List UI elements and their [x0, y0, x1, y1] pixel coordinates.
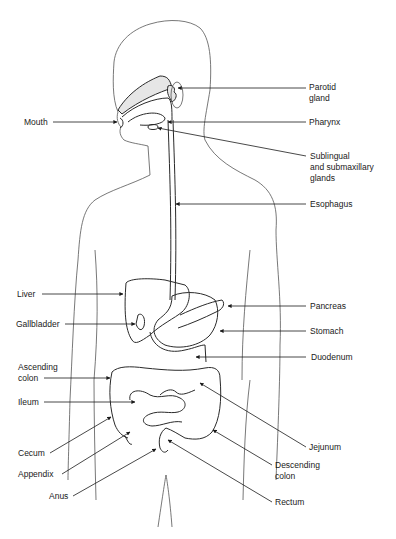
- small-intestine: [130, 390, 195, 426]
- large-intestine: [110, 367, 221, 452]
- face-outline: [117, 112, 150, 175]
- esophagus-tube: [168, 120, 176, 300]
- right-arm-line: [242, 250, 250, 380]
- nasal-cavity: [118, 76, 172, 114]
- label-pancreas: Pancreas: [310, 301, 346, 312]
- right-side-outline: [243, 380, 250, 500]
- label-mouth: Mouth: [24, 117, 48, 128]
- leader-appendix: [62, 432, 130, 474]
- label-gallbladder: Gallbladder: [16, 319, 59, 330]
- label-pharynx: Pharynx: [309, 117, 340, 128]
- leader-jejunum: [200, 383, 306, 447]
- liver-shape: [125, 279, 189, 343]
- left-arm-line: [94, 250, 97, 380]
- tongue: [128, 113, 165, 125]
- left-side-outline: [94, 380, 96, 500]
- label-jejunum: Jejunum: [309, 442, 341, 453]
- label-anus: Anus: [49, 491, 68, 502]
- label-ascending-colon: Ascending colon: [18, 362, 58, 384]
- label-cecum: Cecum: [18, 448, 45, 459]
- leader-rectum: [168, 440, 272, 502]
- leader-cecum: [50, 417, 111, 453]
- digestive-system-diagram: [0, 0, 396, 539]
- label-ileum: Ileum: [18, 397, 39, 408]
- ascending-colon-shape: [110, 372, 128, 438]
- appendix-shape: [125, 436, 132, 444]
- sigmoid-rectum: [159, 428, 185, 452]
- label-parotid-gland: Parotid gland: [309, 82, 336, 104]
- sublingual-gland-shape: [148, 125, 158, 130]
- jejunum-coils: [160, 390, 195, 395]
- label-descending-colon: Descending colon: [275, 460, 320, 482]
- upper-abdominal-organs: [125, 279, 224, 362]
- stomach-shape: [154, 293, 218, 348]
- transverse-colon: [112, 367, 220, 378]
- gallbladder-shape: [136, 314, 145, 329]
- ileum-coils: [130, 391, 185, 426]
- leader-anus: [73, 449, 156, 496]
- leader-descending-colon: [213, 430, 272, 465]
- label-sublingual-submaxillary-glands: Sublingual and submaxillary glands: [310, 151, 374, 184]
- label-rectum: Rectum: [275, 497, 304, 508]
- leader-sublingual: [158, 128, 306, 156]
- label-appendix: Appendix: [18, 469, 53, 480]
- label-stomach: Stomach: [310, 326, 344, 337]
- label-duodenum: Duodenum: [311, 352, 353, 363]
- leg-divide-line: [158, 475, 172, 527]
- label-liver: Liver: [17, 289, 35, 300]
- label-esophagus: Esophagus: [310, 199, 353, 210]
- descending-colon-shape: [185, 378, 221, 439]
